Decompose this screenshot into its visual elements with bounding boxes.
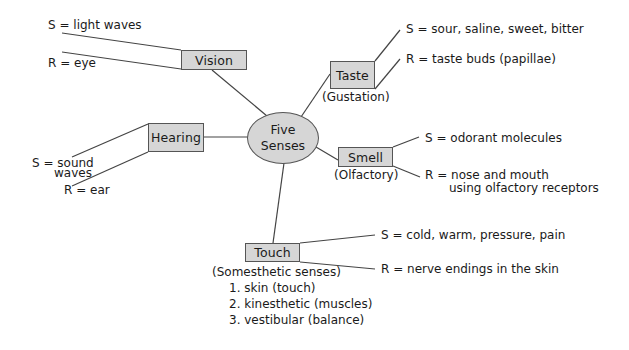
hearing-stimulus-line: [72, 124, 148, 157]
taste-receptor-line: [375, 59, 400, 89]
vision-node: Vision: [181, 50, 247, 70]
hearing-stimulus-line2: waves: [54, 166, 92, 180]
vision-center-line: [212, 70, 267, 116]
hearing-receptor: R = ear: [64, 183, 110, 197]
touch-subtype-1: 1. skin (touch): [229, 281, 315, 295]
center-node-five-senses: Five Senses: [247, 112, 319, 164]
taste-receptor: R = taste buds (papillae): [406, 52, 556, 66]
touch-receptor: R = nerve endings in the skin: [381, 262, 559, 276]
touch-subtype-2: 2. kinesthetic (muscles): [229, 297, 372, 311]
taste-stimulus-line: [375, 30, 400, 61]
vision-receptor: R = eye: [48, 56, 96, 70]
smell-receptor-line2: using olfactory receptors: [449, 181, 599, 195]
touch-stimulus-line: [300, 235, 375, 243]
touch-center-line: [273, 163, 284, 243]
vision-stimulus-line: [62, 33, 181, 50]
touch-subtype-3: 3. vestibular (balance): [229, 313, 364, 327]
smell-stimulus: S = odorant molecules: [425, 131, 562, 145]
hearing-node: Hearing: [148, 123, 204, 152]
touch-node: Touch: [245, 243, 300, 262]
taste-stimulus: S = sour, saline, sweet, bitter: [406, 22, 584, 36]
smell-node: Smell: [338, 147, 393, 167]
taste-subtitle: (Gustation): [322, 90, 390, 104]
taste-node: Taste: [330, 61, 375, 89]
smell-stimulus-line: [393, 137, 419, 147]
touch-subtitle: (Somesthetic senses): [212, 265, 341, 279]
touch-stimulus: S = cold, warm, pressure, pain: [381, 228, 565, 242]
smell-center-line: [316, 147, 338, 160]
center-line2: Senses: [261, 138, 305, 154]
vision-stimulus: S = light waves: [48, 18, 142, 32]
smell-subtitle: (Olfactory): [334, 168, 398, 182]
center-line1: Five: [271, 122, 296, 138]
smell-receptor-line1: R = nose and mouth: [425, 168, 549, 182]
